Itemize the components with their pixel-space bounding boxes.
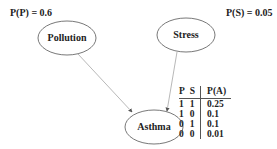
edge-stress-asthma xyxy=(167,52,177,111)
cpt-header: P(A) xyxy=(201,86,232,99)
pollution-node-label: Pollution xyxy=(38,32,96,43)
cpt-cell: 0 xyxy=(179,119,190,129)
asthma-node-label: Asthma xyxy=(125,121,183,132)
cpt-row: 0 1 0.1 xyxy=(179,119,231,129)
cpt-cell: 1 xyxy=(190,99,201,110)
conditional-probability-table: P S P(A) 1 1 0.25 1 0 0.1 0 1 0.1 0 0 0.… xyxy=(179,86,231,139)
cpt-cell: 0.01 xyxy=(201,129,232,139)
cpt-header-row: P S P(A) xyxy=(179,86,231,99)
cpt-row: 0 0 0.01 xyxy=(179,129,231,139)
cpt-cell: 1 xyxy=(179,109,190,119)
pollution-prior-label: P(P) = 0.6 xyxy=(10,7,52,18)
cpt-row: 1 1 0.25 xyxy=(179,99,231,110)
cpt-cell: 0.1 xyxy=(201,109,232,119)
cpt-cell: 0.25 xyxy=(201,99,232,110)
cpt-cell: 0.1 xyxy=(201,119,232,129)
cpt-cell: 0 xyxy=(190,109,201,119)
cpt-cell: 0 xyxy=(179,129,190,139)
cpt-cell: 1 xyxy=(179,99,190,110)
cpt-header: P xyxy=(179,86,190,99)
stress-node-label: Stress xyxy=(157,29,215,40)
cpt-header: S xyxy=(190,86,201,99)
stress-prior-label: P(S) = 0.05 xyxy=(226,7,273,18)
cpt-row: 1 0 0.1 xyxy=(179,109,231,119)
edge-pollution-asthma xyxy=(78,54,132,112)
cpt-cell: 0 xyxy=(190,129,201,139)
cpt-cell: 1 xyxy=(190,119,201,129)
